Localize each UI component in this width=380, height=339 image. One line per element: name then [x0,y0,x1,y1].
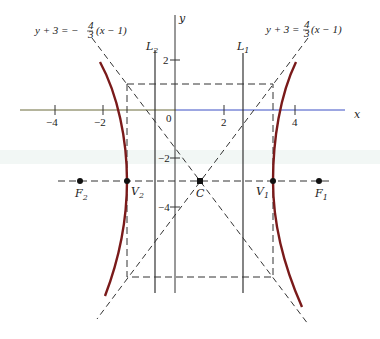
focus-F2 [77,178,83,184]
svg-text:3: 3 [87,28,94,40]
vertex-V1 [270,178,276,184]
y-tick-neg2: −2 [158,152,170,164]
y-tick-neg4: −4 [158,201,170,213]
label-V1: V1 [256,185,269,200]
svg-text:3: 3 [303,27,310,39]
label-F2: F2 [74,187,88,202]
hyperbola-right-branch [273,62,302,307]
x-tick-0: 0 [166,112,172,124]
label-L1: L1 [236,40,249,55]
label-L2: L2 [145,40,158,55]
center-point [197,178,203,184]
equation-left: y + 3 = − 4 3 (x − 1) [34,19,127,40]
hyperbola-left-branch [100,62,127,296]
focus-F1 [316,178,322,184]
x-tick-neg4: −4 [46,116,58,128]
equation-right: y + 3 = 4 3 (x − 1) [265,18,342,39]
x-tick-4: 4 [292,116,298,128]
vertex-V2 [124,178,130,184]
label-V2: V2 [131,185,144,200]
label-F1: F1 [314,187,328,202]
svg-text:(x − 1): (x − 1) [96,24,127,37]
x-axis-label: x [354,108,361,121]
x-tick-neg2: −2 [94,116,106,128]
svg-text:(x − 1): (x − 1) [311,23,342,36]
scan-band [0,150,380,164]
x-tick-2: 2 [221,116,227,128]
svg-text:y + 3 = −: y + 3 = − [34,24,79,36]
svg-text:y + 3 =: y + 3 = [265,23,299,35]
hyperbola-diagram: x y −4 −2 0 2 4 2 −2 −4 L2 L1 C V2 V1 F2 [0,0,380,339]
label-C: C [196,187,205,200]
y-tick-2: 2 [163,54,169,66]
y-axis-label: y [178,12,186,25]
